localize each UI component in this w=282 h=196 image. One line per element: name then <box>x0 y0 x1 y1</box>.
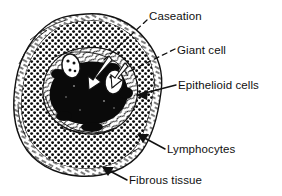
granuloma-illustration <box>0 0 282 196</box>
granuloma-figure: Caseation Giant cell Epithelioid cells L… <box>0 0 282 196</box>
label-caseation: Caseation <box>149 10 202 23</box>
label-epithelioid-cells: Epithelioid cells <box>178 79 259 92</box>
label-lymphocytes: Lymphocytes <box>167 143 235 156</box>
label-fibrous-tissue: Fibrous tissue <box>129 174 202 187</box>
label-giant-cell: Giant cell <box>177 44 226 57</box>
